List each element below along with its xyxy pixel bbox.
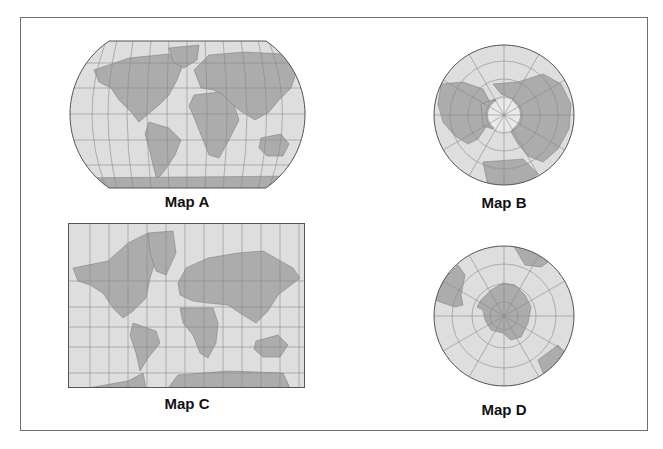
map-b-label: Map B (444, 194, 564, 211)
map-b (433, 44, 575, 186)
map-d-image (433, 245, 575, 387)
map-c-image (68, 223, 305, 388)
map-c (68, 223, 305, 388)
map-d (433, 245, 575, 387)
map-a-label: Map A (127, 193, 247, 210)
map-d-label: Map D (444, 401, 564, 418)
map-b-image (433, 44, 575, 186)
map-a-image (69, 40, 306, 189)
map-c-label: Map C (127, 395, 247, 412)
map-a (69, 40, 306, 189)
